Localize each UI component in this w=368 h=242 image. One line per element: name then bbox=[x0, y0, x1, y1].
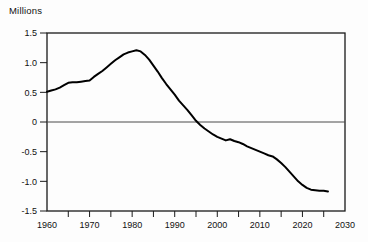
y-axis-tick-label: 0.5 bbox=[24, 88, 37, 98]
x-axis-tick-label: 2010 bbox=[250, 220, 270, 230]
y-axis-tick-label: 1.0 bbox=[24, 58, 37, 68]
x-axis-tick-label: 2030 bbox=[335, 220, 355, 230]
x-axis-tick-label: 2020 bbox=[292, 220, 312, 230]
y-axis-tick-label: -0.5 bbox=[21, 147, 37, 157]
x-axis-tick-label: 2000 bbox=[207, 220, 227, 230]
line-chart: 196019701980199020002010202020301.51.00.… bbox=[0, 0, 368, 242]
y-axis-tick-label: 1.5 bbox=[24, 28, 37, 38]
y-axis-tick-label: 0 bbox=[32, 117, 37, 127]
line-chart-figure: Millions 1960197019801990200020102020203… bbox=[0, 0, 368, 242]
data-series-line bbox=[47, 50, 328, 191]
x-axis-tick-label: 1990 bbox=[165, 220, 185, 230]
y-axis-tick-label: -1.5 bbox=[21, 206, 37, 216]
x-axis-tick-label: 1980 bbox=[122, 220, 142, 230]
y-axis-tick-label: -1.0 bbox=[21, 177, 37, 187]
x-axis-tick-label: 1960 bbox=[37, 220, 57, 230]
x-axis-tick-label: 1970 bbox=[80, 220, 100, 230]
